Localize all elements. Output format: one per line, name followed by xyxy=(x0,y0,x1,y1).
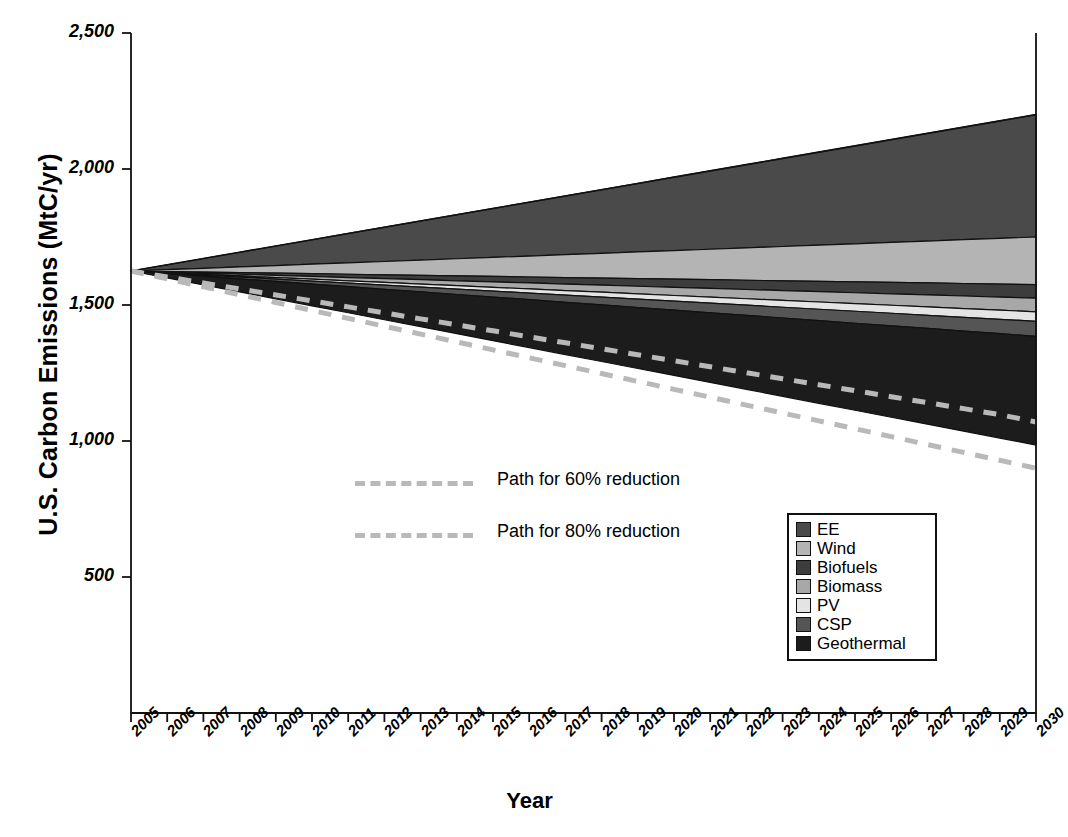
path80-label: Path for 80% reduction xyxy=(497,521,680,542)
legend-label: EE xyxy=(817,521,840,538)
legend-item-wind[interactable]: Wind xyxy=(796,539,929,558)
y-tick-label: 1,000 xyxy=(18,429,114,450)
legend-swatch xyxy=(796,522,811,537)
legend-label: Biomass xyxy=(817,578,882,595)
legend-item-biofuels[interactable]: Biofuels xyxy=(796,558,929,577)
legend-swatch xyxy=(796,636,811,651)
legend-item-csp[interactable]: CSP xyxy=(796,615,929,634)
legend-label: Wind xyxy=(817,540,856,557)
legend-label: Biofuels xyxy=(817,559,877,576)
y-tick-label: 1,500 xyxy=(18,293,114,314)
legend-swatch xyxy=(796,598,811,613)
legend-swatch xyxy=(796,541,811,556)
legend-item-ee[interactable]: EE xyxy=(796,520,929,539)
y-tick-label: 500 xyxy=(18,565,114,586)
y-tick-label: 2,500 xyxy=(18,21,114,42)
legend-label: CSP xyxy=(817,616,852,633)
y-tick-label: 2,000 xyxy=(18,157,114,178)
legend-label: PV xyxy=(817,597,840,614)
legend-label: Geothermal xyxy=(817,635,906,652)
legend: EEWindBiofuelsBiomassPVCSPGeothermal xyxy=(787,513,937,661)
legend-item-geothermal[interactable]: Geothermal xyxy=(796,634,929,653)
legend-item-biomass[interactable]: Biomass xyxy=(796,577,929,596)
path60-label: Path for 60% reduction xyxy=(497,469,680,490)
legend-item-pv[interactable]: PV xyxy=(796,596,929,615)
path80-dash-sample xyxy=(355,533,473,538)
legend-swatch xyxy=(796,579,811,594)
legend-swatch xyxy=(796,560,811,575)
legend-swatch xyxy=(796,617,811,632)
path60-dash-sample xyxy=(355,481,473,486)
